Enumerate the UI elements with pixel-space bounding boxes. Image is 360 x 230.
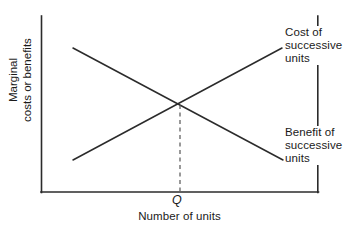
benefit-series-label: Benefit of successive units <box>284 126 343 165</box>
x-axis-label: Number of units <box>41 210 318 223</box>
cost-label-line1: Cost of <box>285 26 342 39</box>
y-axis-label-line2: costs or benefits <box>20 15 34 145</box>
cost-label-line3: units <box>285 52 342 65</box>
equilibrium-tick-label: Q <box>172 194 182 207</box>
cost-series-label: Cost of successive units <box>284 26 343 65</box>
y-axis-label-line1: Marginal <box>6 15 20 145</box>
benefit-label-line3: units <box>285 152 342 165</box>
cost-label-line2: successive <box>285 39 342 52</box>
benefit-label-line1: Benefit of <box>285 126 342 139</box>
y-axis-label: Marginal costs or benefits <box>6 15 34 145</box>
marginal-cost-benefit-chart: Marginal costs or benefits Cost of succe… <box>0 0 360 230</box>
benefit-label-line2: successive <box>285 139 342 152</box>
